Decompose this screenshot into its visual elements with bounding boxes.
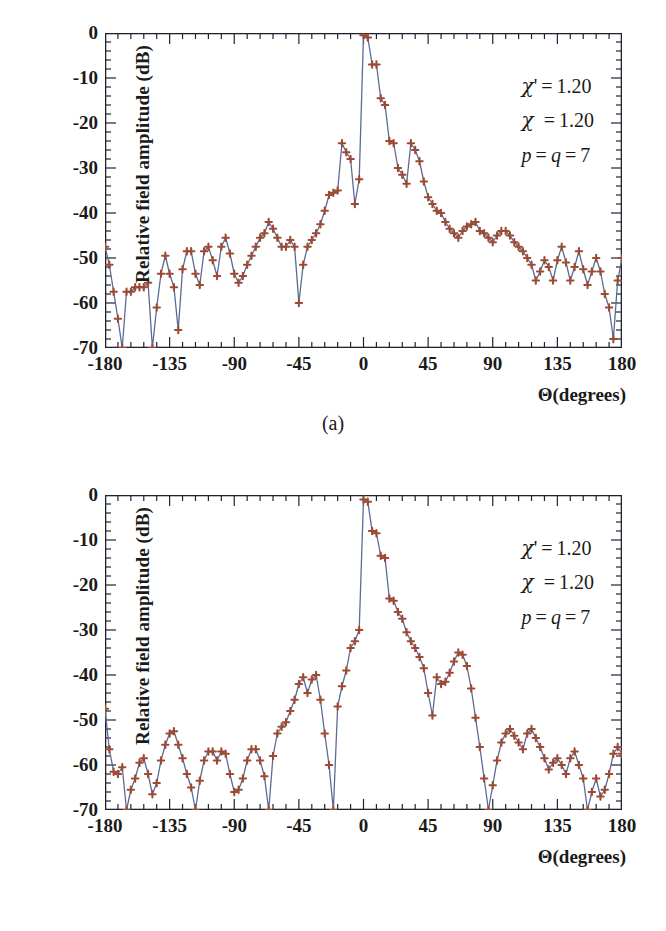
x-tick-label: 45 <box>419 815 438 837</box>
x-tick-label: 135 <box>543 815 572 837</box>
y-tick-label: 0 <box>89 484 99 506</box>
x-tick-label: -45 <box>286 815 311 837</box>
y-tick-label: -20 <box>73 112 98 134</box>
y-tick-label: -60 <box>73 292 98 314</box>
annotation-chi: χ = 1.20 <box>522 565 594 599</box>
annotation-chi: χ = 1.20 <box>522 103 594 137</box>
y-tick-label: -10 <box>73 67 98 89</box>
y-tick-label: -20 <box>73 574 98 596</box>
annotation-chi-prime: χ' = 1.20 <box>522 531 594 565</box>
panel-caption-a: (a) <box>0 412 666 435</box>
y-tick-label: -10 <box>73 529 98 551</box>
panel-a: Relative field amplitude (dB) 0 -10 -20 … <box>0 0 666 465</box>
x-tick-label: -180 <box>88 815 123 837</box>
x-tick-label: 90 <box>483 353 502 375</box>
annotation-pq: p = q = 7 <box>522 138 594 172</box>
y-tick-label: -30 <box>73 619 98 641</box>
x-tick-label: 135 <box>543 353 572 375</box>
plot-area-b: Relative field amplitude (dB) 0 -10 -20 … <box>105 495 622 810</box>
x-axis-label-a: Θ(degrees) <box>538 384 626 406</box>
x-tick-label: -90 <box>222 815 247 837</box>
y-tick-label: -40 <box>73 202 98 224</box>
annotation-chi-prime: χ' = 1.20 <box>522 69 594 103</box>
x-tick-label: 180 <box>608 353 637 375</box>
y-tick-label: 0 <box>89 22 99 44</box>
panel-b: Relative field amplitude (dB) 0 -10 -20 … <box>0 462 666 927</box>
y-axis-label-b: Relative field amplitude (dB) <box>132 506 154 746</box>
y-tick-label: -60 <box>73 754 98 776</box>
y-tick-label: -40 <box>73 664 98 686</box>
x-tick-label: -135 <box>152 353 187 375</box>
y-tick-label: -50 <box>73 709 98 731</box>
figure-container: Relative field amplitude (dB) 0 -10 -20 … <box>0 0 666 931</box>
x-tick-label: -180 <box>88 353 123 375</box>
plot-area-a: Relative field amplitude (dB) 0 -10 -20 … <box>105 33 622 348</box>
y-tick-label: -50 <box>73 247 98 269</box>
x-tick-label: 45 <box>419 353 438 375</box>
x-tick-label: 180 <box>608 815 637 837</box>
x-tick-label: 0 <box>359 815 369 837</box>
y-axis-label-a: Relative field amplitude (dB) <box>132 44 154 284</box>
x-tick-label: -135 <box>152 815 187 837</box>
x-axis-label-b: Θ(degrees) <box>538 846 626 868</box>
annotation-pq: p = q = 7 <box>522 600 594 634</box>
x-tick-label: 0 <box>359 353 369 375</box>
annotation-block-b: χ' = 1.20 χ = 1.20 p = q = 7 <box>522 531 594 634</box>
annotation-block-a: χ' = 1.20 χ = 1.20 p = q = 7 <box>522 69 594 172</box>
x-tick-label: -90 <box>222 353 247 375</box>
y-tick-label: -30 <box>73 157 98 179</box>
x-tick-label: 90 <box>483 815 502 837</box>
x-tick-label: -45 <box>286 353 311 375</box>
